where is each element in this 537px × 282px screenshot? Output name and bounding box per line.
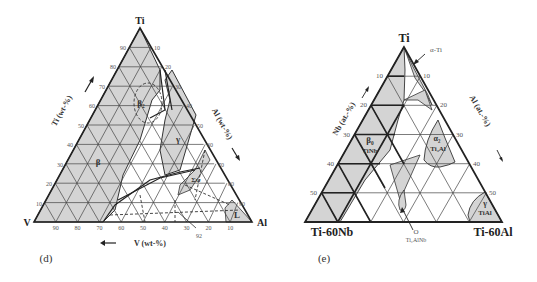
- svg-text:80: 80: [228, 181, 234, 187]
- svg-text:40: 40: [162, 225, 168, 231]
- o-phase-arrow-e: [400, 207, 413, 230]
- svg-text:40: 40: [473, 160, 481, 168]
- svg-text:50: 50: [78, 123, 84, 129]
- svg-text:10: 10: [154, 45, 160, 51]
- svg-text:70: 70: [99, 84, 105, 90]
- ternary-diagram-e: Ti Ti-60Nb Ti-60Al 10 20 30 40 50 10 20 …: [305, 31, 513, 265]
- corner-left-e: Ti-60Nb: [311, 225, 354, 239]
- svg-text:30: 30: [57, 162, 63, 168]
- phase-sublabel-beta0-e: TiNb: [362, 147, 378, 155]
- svg-text:80: 80: [75, 225, 81, 231]
- svg-text:20: 20: [205, 225, 211, 231]
- phase-label-beta2-d: β₂: [137, 98, 145, 108]
- svg-text:10: 10: [227, 225, 233, 231]
- alpha2-region-e: [424, 120, 455, 167]
- svg-text:60: 60: [118, 225, 124, 231]
- svg-text:20: 20: [360, 101, 368, 109]
- phase-sublabel-o-e: Ti₂AlNb: [406, 237, 427, 243]
- svg-text:40: 40: [186, 103, 192, 109]
- corner-top-e: Ti: [398, 31, 410, 45]
- phase-label-liquid-d: L: [234, 210, 240, 220]
- bottom-axis-title-d: V (wt-%): [134, 239, 166, 248]
- corner-right-e: Ti-60Al: [473, 225, 513, 239]
- svg-text:10: 10: [36, 201, 42, 207]
- svg-text:90: 90: [53, 225, 59, 231]
- svg-text:50: 50: [140, 225, 146, 231]
- phase-label-sigma-d: Σψ: [191, 176, 201, 184]
- phase-sublabel-gamma-e: TiAl: [478, 209, 492, 217]
- svg-text:90: 90: [239, 201, 245, 207]
- svg-text:20: 20: [165, 64, 171, 70]
- svg-text:90: 90: [120, 45, 126, 51]
- svg-text:80: 80: [110, 64, 116, 70]
- panel-label-d: (d): [40, 252, 53, 265]
- svg-text:50: 50: [489, 189, 497, 197]
- bottom-axis-arrow-d: [100, 240, 116, 246]
- svg-text:20: 20: [46, 181, 52, 187]
- svg-text:70: 70: [96, 225, 102, 231]
- svg-text:30: 30: [184, 225, 190, 231]
- svg-text:20: 20: [440, 101, 448, 109]
- phase-sublabel-alpha2-e: Ti₃Al: [430, 145, 446, 153]
- phase-label-beta0-e: β₀: [366, 135, 374, 145]
- right-axis-arrow-d: [232, 148, 240, 161]
- right-axis-title-e: Al (at.-%): [468, 93, 493, 128]
- corner-left-d: V: [23, 217, 31, 228]
- svg-text:60: 60: [207, 142, 213, 148]
- left-axis-title-d: Ti (wt-%): [50, 94, 74, 128]
- annotation-92-d: 92: [196, 233, 202, 239]
- left-axis-arrow-e: [362, 86, 369, 98]
- svg-text:50: 50: [197, 123, 203, 129]
- svg-text:50: 50: [310, 189, 318, 197]
- phase-label-o-e: O: [413, 228, 418, 236]
- svg-text:40: 40: [327, 160, 335, 168]
- svg-text:10: 10: [423, 72, 431, 80]
- ternary-diagram-d: Ti V Al 10 20 30 40 50 60 70 80 90 10 20…: [23, 15, 267, 265]
- phase-label-alpha2-e: α₂: [434, 134, 441, 143]
- svg-text:60: 60: [89, 103, 95, 109]
- svg-text:30: 30: [456, 131, 464, 139]
- alpha-ti-arrow-e: [413, 54, 425, 65]
- phase-label-alpha-ti-e: α-Ti: [430, 46, 442, 54]
- svg-text:40: 40: [67, 142, 73, 148]
- bottom-ticks-d: 90 80 70 60 50 40 30 20 10: [53, 225, 233, 231]
- svg-text:30: 30: [175, 84, 181, 90]
- right-axis-arrow-e: [497, 150, 503, 162]
- left-axis-arrow-d: [85, 76, 94, 92]
- svg-text:30: 30: [343, 131, 351, 139]
- phase-label-gamma-d: γ: [175, 134, 181, 144]
- svg-text:10: 10: [376, 72, 384, 80]
- panel-label-e: (e): [318, 252, 331, 265]
- svg-text:70: 70: [218, 162, 224, 168]
- phase-label-beta-d: β: [96, 157, 101, 167]
- middle-region-e: [404, 90, 432, 110]
- right-axis-title-d: Al (wt-%): [210, 107, 235, 142]
- phase-label-gamma-e: γ: [482, 199, 487, 208]
- corner-top-d: Ti: [135, 15, 144, 26]
- corner-right-d: Al: [257, 217, 267, 228]
